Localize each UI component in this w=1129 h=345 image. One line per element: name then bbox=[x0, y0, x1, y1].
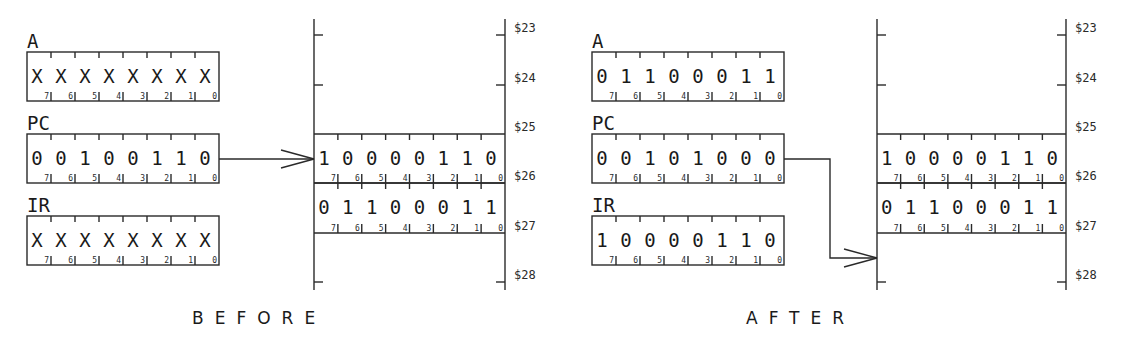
panel-caption: BEFORE bbox=[192, 308, 326, 328]
memory-cell: 1000011076543210 bbox=[877, 134, 1066, 183]
bit-number: 2 bbox=[729, 256, 734, 265]
bit-number: 4 bbox=[403, 174, 408, 183]
bit-value: 1 bbox=[438, 147, 449, 169]
bit-number: 3 bbox=[427, 224, 432, 233]
register-ir: IR1000011076543210 bbox=[592, 194, 784, 265]
bit-number: 4 bbox=[403, 224, 408, 233]
bit-value: 1 bbox=[740, 229, 751, 251]
before-after-diagram: AXXXXXXXX76543210PC0010011076543210IRXXX… bbox=[0, 0, 1129, 345]
bit-number: 4 bbox=[681, 174, 686, 183]
bit-value: 1 bbox=[644, 147, 655, 169]
bit-number: 0 bbox=[1059, 224, 1064, 233]
bit-value: 0 bbox=[764, 229, 775, 251]
bit-number: 0 bbox=[777, 174, 782, 183]
bit-number: 6 bbox=[633, 92, 638, 101]
bit-number: 3 bbox=[988, 224, 993, 233]
bit-number: 0 bbox=[212, 174, 217, 183]
memory-cell: 1000011076543210 bbox=[314, 134, 505, 183]
bit-number: 0 bbox=[498, 174, 503, 183]
bit-number: 5 bbox=[92, 256, 97, 265]
memory-address-label: $28 bbox=[514, 268, 536, 282]
bit-number: 6 bbox=[355, 224, 360, 233]
bit-value: 0 bbox=[485, 147, 496, 169]
bit-value: X bbox=[151, 229, 163, 251]
bit-number: 5 bbox=[379, 224, 384, 233]
bit-number: 4 bbox=[965, 224, 970, 233]
bit-value: 0 bbox=[199, 147, 210, 169]
bit-value: 0 bbox=[668, 147, 679, 169]
bit-value: 0 bbox=[905, 147, 916, 169]
bit-value: 1 bbox=[764, 65, 775, 87]
bit-value: X bbox=[79, 65, 91, 87]
bit-number: 5 bbox=[92, 174, 97, 183]
bit-number: 6 bbox=[68, 174, 73, 183]
memory-map: 10000110765432100110001176543210$23$24$2… bbox=[314, 19, 536, 290]
bit-number: 2 bbox=[729, 174, 734, 183]
bit-number: 1 bbox=[753, 256, 758, 265]
bit-number: 7 bbox=[609, 256, 614, 265]
bit-number: 2 bbox=[450, 174, 455, 183]
bit-number: 5 bbox=[657, 256, 662, 265]
register-a: A0110001176543210 bbox=[592, 30, 784, 101]
bit-number: 0 bbox=[498, 224, 503, 233]
bit-value: 1 bbox=[485, 196, 496, 218]
bit-number: 5 bbox=[657, 174, 662, 183]
bit-value: 1 bbox=[366, 196, 377, 218]
bit-number: 2 bbox=[1012, 174, 1017, 183]
bit-value: X bbox=[199, 65, 211, 87]
bit-value: X bbox=[127, 229, 139, 251]
memory-address-label: $27 bbox=[514, 219, 536, 233]
bit-number: 1 bbox=[1036, 224, 1041, 233]
bit-value: 1 bbox=[928, 196, 939, 218]
bit-number: 4 bbox=[681, 92, 686, 101]
bit-number: 3 bbox=[988, 174, 993, 183]
bit-value: 1 bbox=[1023, 196, 1034, 218]
bit-value: X bbox=[79, 229, 91, 251]
bit-number: 4 bbox=[116, 256, 121, 265]
panel-caption: AFTER bbox=[746, 308, 855, 328]
bit-value: X bbox=[127, 65, 139, 87]
bit-number: 1 bbox=[1036, 174, 1041, 183]
memory-address-label: $26 bbox=[1075, 169, 1097, 183]
bit-value: 0 bbox=[976, 147, 987, 169]
bit-number: 1 bbox=[474, 174, 479, 183]
bit-value: 1 bbox=[620, 65, 631, 87]
bit-number: 2 bbox=[164, 92, 169, 101]
bit-value: 0 bbox=[596, 147, 607, 169]
bit-number: 3 bbox=[705, 174, 710, 183]
bit-value: 0 bbox=[390, 147, 401, 169]
bit-value: 0 bbox=[668, 229, 679, 251]
memory-cell: 0110001176543210 bbox=[877, 183, 1066, 233]
bit-value: 0 bbox=[976, 196, 987, 218]
bit-value: 0 bbox=[414, 147, 425, 169]
bit-value: 0 bbox=[644, 229, 655, 251]
bit-number: 2 bbox=[164, 256, 169, 265]
bit-value: 0 bbox=[1046, 147, 1057, 169]
bit-number: 1 bbox=[753, 92, 758, 101]
bit-value: 0 bbox=[692, 229, 703, 251]
bit-value: 0 bbox=[740, 147, 751, 169]
bit-value: 1 bbox=[905, 196, 916, 218]
bit-value: X bbox=[151, 65, 163, 87]
bit-number: 3 bbox=[140, 256, 145, 265]
memory-address-label: $28 bbox=[1075, 268, 1097, 282]
bit-number: 0 bbox=[212, 256, 217, 265]
register-name: A bbox=[27, 30, 39, 52]
bit-value: 0 bbox=[928, 147, 939, 169]
bit-value: 1 bbox=[692, 147, 703, 169]
bit-number: 3 bbox=[705, 92, 710, 101]
bit-value: 0 bbox=[390, 196, 401, 218]
bit-number: 3 bbox=[427, 174, 432, 183]
register-name: PC bbox=[27, 112, 50, 134]
bit-number: 5 bbox=[941, 224, 946, 233]
bit-value: 0 bbox=[952, 196, 963, 218]
bit-number: 1 bbox=[188, 174, 193, 183]
bit-number: 6 bbox=[355, 174, 360, 183]
bit-value: 0 bbox=[318, 196, 329, 218]
memory-cell: 0110001176543210 bbox=[314, 183, 505, 233]
bit-number: 6 bbox=[633, 256, 638, 265]
bit-number: 7 bbox=[44, 92, 49, 101]
bit-number: 1 bbox=[753, 174, 758, 183]
bit-value: 1 bbox=[342, 196, 353, 218]
memory-address-label: $23 bbox=[1075, 21, 1097, 35]
